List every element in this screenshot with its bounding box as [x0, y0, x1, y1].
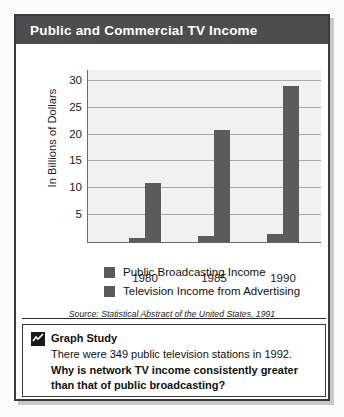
- y-tick-label: 25: [69, 101, 82, 113]
- graph-study-title: Graph Study: [51, 331, 117, 345]
- plot-area: 30 25 20 15 10 5: [87, 70, 321, 243]
- gridline: 30: [88, 80, 321, 81]
- screenshot-root: Public and Commercial TV Income In Billi…: [0, 0, 344, 417]
- graph-study-fact: There were 349 public television station…: [51, 347, 317, 361]
- legend-label: Public Broadcasting Income: [123, 266, 266, 278]
- y-tick-label: 15: [69, 154, 82, 166]
- y-tick-label: 20: [69, 128, 82, 140]
- y-axis-label: In Billions of Dollars: [46, 68, 58, 208]
- bar-advertising-1990: [283, 86, 299, 242]
- page-title: Public and Commercial TV Income: [30, 23, 258, 38]
- bar-public-1985: [198, 236, 214, 243]
- chart-panel: In Billions of Dollars 30 25 20 15 10: [16, 44, 328, 320]
- line-chart-icon: [31, 332, 45, 346]
- card-title-bar: Public and Commercial TV Income: [16, 16, 328, 44]
- legend-swatch-icon: [104, 286, 115, 297]
- legend-item-advertising: Television Income from Advertising: [104, 285, 300, 297]
- bar-public-1990: [267, 234, 283, 242]
- section-divider: [22, 318, 326, 319]
- graph-study-header: Graph Study: [31, 331, 317, 346]
- legend-swatch-icon: [104, 267, 115, 278]
- legend-label: Television Income from Advertising: [123, 285, 300, 297]
- y-tick-label: 5: [76, 208, 82, 220]
- bar-public-1980: [129, 238, 145, 242]
- y-tick-label: 10: [69, 181, 82, 193]
- chart-legend: Public Broadcasting Income Television In…: [104, 266, 300, 304]
- graph-study-question: Why is network TV income consistently gr…: [51, 363, 317, 392]
- bar-advertising-1980: [145, 183, 161, 242]
- bar-advertising-1985: [214, 130, 230, 242]
- graph-study-box: Graph Study There were 349 public televi…: [22, 324, 326, 397]
- y-tick-label: 30: [69, 74, 82, 86]
- legend-item-public-broadcasting: Public Broadcasting Income: [104, 266, 300, 278]
- chart-card: Public and Commercial TV Income In Billi…: [14, 14, 330, 401]
